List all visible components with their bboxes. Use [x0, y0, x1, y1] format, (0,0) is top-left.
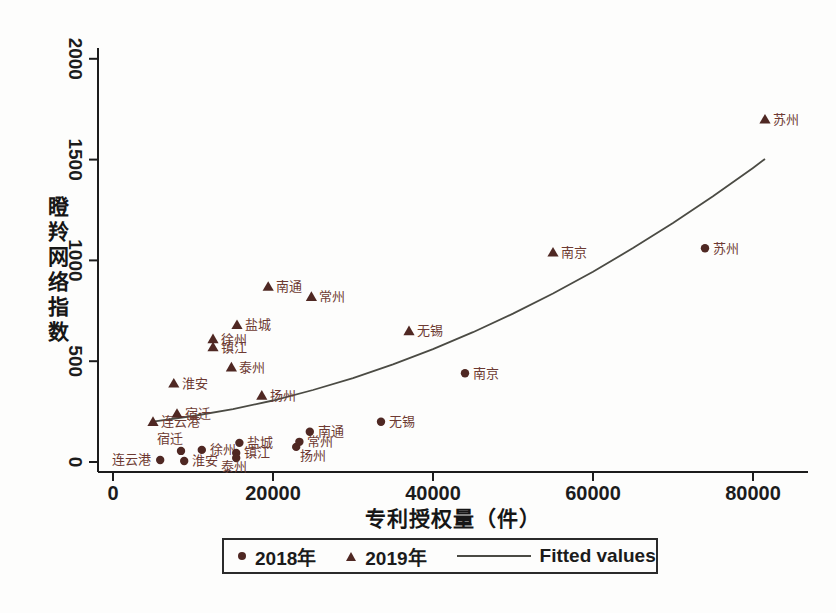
data-point-2019 [403, 326, 414, 336]
city-label-2019: 南京 [561, 245, 587, 260]
city-label-2018: 南通 [318, 424, 344, 439]
data-point-2019 [256, 390, 267, 400]
legend-item-2019: 2019年 [346, 543, 426, 570]
legend-box: 2018年 2019年 Fitted values [222, 538, 658, 574]
city-label-2018: 无锡 [389, 414, 415, 429]
data-point-2019 [226, 362, 237, 372]
city-label-2019: 宿迁 [185, 406, 211, 421]
data-point-2018 [295, 438, 303, 446]
city-label-2018: 连云港 [112, 452, 151, 467]
data-point-2018 [156, 456, 164, 464]
city-label-2018: 徐州 [210, 442, 236, 457]
city-label-2019: 泰州 [239, 360, 265, 375]
line-marker-icon [457, 555, 531, 557]
data-point-2019 [759, 114, 770, 124]
city-label-2019: 南通 [276, 279, 302, 294]
legend-label-2018: 2018年 [255, 543, 316, 570]
circle-marker-icon [238, 552, 246, 560]
y-tick-label-500: 500 [65, 345, 86, 377]
x-tick-label-40000: 40000 [405, 482, 461, 504]
y-tick-label-0: 0 [65, 457, 86, 468]
city-label-2018: 南京 [473, 366, 499, 381]
data-point-2019 [171, 408, 182, 418]
y-tick-label-2000: 2000 [65, 38, 86, 80]
data-point-2018 [235, 439, 243, 447]
y-axis-title: 瞪羚网络指数 [42, 196, 72, 346]
x-tick-label-80000: 80000 [725, 482, 781, 504]
data-point-2019 [547, 247, 558, 257]
scatter-chart: 0500100015002000020000400006000080000连云港… [0, 0, 836, 613]
city-label-2019: 扬州 [270, 388, 296, 403]
x-tick-label-60000: 60000 [565, 482, 621, 504]
x-tick-label-0: 0 [107, 482, 118, 504]
legend-label-2019: 2019年 [365, 543, 426, 570]
city-label-2019: 常州 [319, 289, 345, 304]
data-point-2019 [168, 378, 179, 388]
city-label-2019: 镇江 [221, 340, 247, 355]
data-point-2018 [306, 428, 314, 436]
city-label-2018: 宿迁 [157, 431, 183, 446]
city-label-2018: 苏州 [713, 241, 739, 256]
city-label-2018: 扬州 [300, 448, 326, 463]
data-point-2019 [263, 281, 274, 291]
data-point-2018 [377, 417, 385, 425]
data-point-2018 [180, 457, 188, 465]
fitted-line [153, 159, 765, 422]
data-point-2019 [306, 291, 317, 301]
data-point-2018 [177, 447, 185, 455]
x-axis-title: 专利授权量（件） [333, 502, 573, 532]
data-point-2018 [198, 446, 206, 454]
city-label-2018: 镇江 [244, 445, 270, 460]
city-label-2018: 泰州 [221, 459, 247, 474]
data-point-2018 [701, 244, 709, 252]
city-label-2019: 淮安 [182, 376, 208, 391]
legend-label-fitted: Fitted values [540, 545, 656, 567]
city-label-2019: 无锡 [417, 323, 443, 338]
data-point-2018 [461, 369, 469, 377]
triangle-marker-icon [346, 552, 356, 561]
city-label-2019: 盐城 [245, 317, 271, 332]
legend-item-fitted: Fitted values [457, 545, 656, 567]
city-label-2019: 苏州 [773, 112, 799, 127]
legend-item-2018: 2018年 [238, 543, 316, 570]
data-point-2019 [231, 320, 242, 330]
y-tick-label-1500: 1500 [65, 138, 86, 180]
x-tick-label-20000: 20000 [245, 482, 301, 504]
